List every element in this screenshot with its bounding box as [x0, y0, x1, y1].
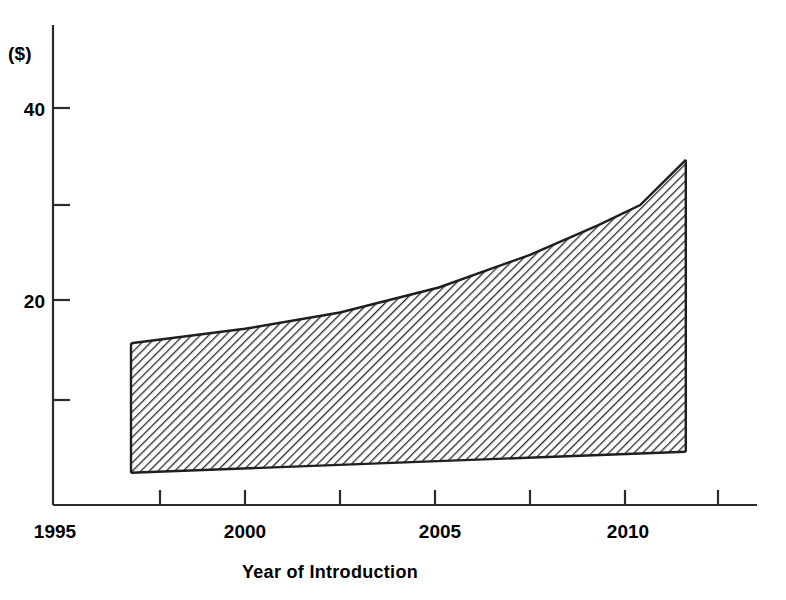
- y-tick-label-20: 20: [24, 291, 45, 312]
- x-tick-label-2010: 2010: [607, 521, 649, 542]
- shaded-band: [131, 160, 686, 473]
- chart-figure: ($) 40 20 1995 2000 2005 2010 Year of In…: [0, 0, 786, 600]
- y-axis-unit-label: ($): [8, 43, 32, 64]
- x-axis-title: Year of Introduction: [242, 562, 418, 582]
- x-tick-label-1995: 1995: [34, 521, 77, 542]
- x-tick-label-2000: 2000: [224, 521, 266, 542]
- x-tick-label-2005: 2005: [419, 521, 462, 542]
- y-tick-label-40: 40: [24, 99, 45, 120]
- chart-svg: ($) 40 20 1995 2000 2005 2010 Year of In…: [0, 0, 786, 600]
